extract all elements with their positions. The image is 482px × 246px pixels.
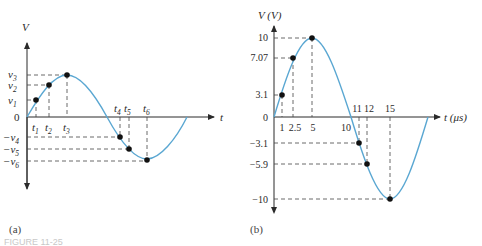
point-t3 (64, 72, 70, 78)
x-tick-5: 5 (311, 122, 316, 133)
figure-canvas: V t v3 v2 v1 0 −v4 −v5 −v6 t1 t2 t3 t4 t… (0, 0, 482, 246)
panel-a-y-arrow-down-icon (24, 183, 30, 190)
panel-a-caption: (a) (9, 223, 22, 236)
panel-b-points (279, 35, 393, 202)
x-tick-t5: t5 (124, 102, 131, 117)
point-t-11us (356, 140, 362, 146)
x-tick-t6: t6 (143, 102, 150, 117)
point-t-2.5us (290, 55, 296, 61)
point-t6 (144, 157, 150, 163)
x-tick-t4: t4 (114, 102, 121, 117)
point-t1 (33, 97, 39, 103)
panel-a-origin: 0 (14, 111, 20, 123)
panel-b-caption: (b) (250, 223, 263, 236)
point-t4 (117, 134, 123, 140)
point-t-12us (364, 161, 370, 167)
y-tick-neg-5.9: −5.9 (250, 159, 268, 170)
panel-b-x-axis-label: t (μs) (444, 111, 467, 124)
point-t-15us (387, 196, 393, 202)
panel-a-x-axis-label: t (220, 111, 224, 123)
panel-b: V (V) t (μs) 10 7.07 3.1 0 −3.1 −5.9 −10… (250, 9, 467, 236)
y-tick-neg-3.1: −3.1 (250, 138, 268, 149)
x-tick-10: 10 (341, 122, 351, 133)
point-t-5us (309, 35, 315, 41)
x-tick-2.5: 2.5 (289, 122, 302, 133)
point-t5 (126, 146, 132, 152)
point-t2 (46, 82, 52, 88)
x-tick-t2: t2 (45, 121, 52, 136)
x-tick-t1: t1 (32, 121, 39, 136)
panel-a-y-axis-label: V (22, 21, 30, 33)
y-tick-7.07: 7.07 (251, 52, 269, 63)
x-tick-12: 12 (364, 103, 374, 114)
y-tick-3.1: 3.1 (256, 89, 269, 100)
point-t-1us (279, 92, 285, 98)
x-tick-11: 11 (352, 103, 362, 114)
y-tick-10: 10 (258, 32, 268, 43)
panel-b-sine-curve (274, 38, 428, 199)
faint-figure-caption: FIGURE 11-25 (4, 237, 63, 246)
panel-a: V t v3 v2 v1 0 −v4 −v5 −v6 t1 t2 t3 t4 t… (3, 21, 224, 236)
panel-b-y-axis-label: V (V) (258, 9, 282, 22)
x-tick-t3: t3 (63, 121, 70, 136)
x-tick-15: 15 (385, 103, 395, 114)
panel-b-y-arrow-down-icon (271, 207, 277, 214)
y-tick-neg-10: −10 (252, 194, 268, 205)
y-tick-0: 0 (263, 112, 268, 123)
x-tick-1: 1 (280, 122, 285, 133)
y-tick-v1: v1 (8, 94, 17, 109)
